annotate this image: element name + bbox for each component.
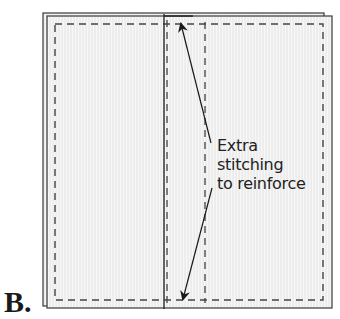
figure-label: B.: [4, 287, 32, 317]
callout-line-3: to reinforce: [217, 174, 306, 193]
callout-line-2: stitching: [217, 155, 306, 174]
callout-text: Extra stitching to reinforce: [217, 136, 306, 193]
callout-line-1: Extra: [217, 136, 306, 155]
